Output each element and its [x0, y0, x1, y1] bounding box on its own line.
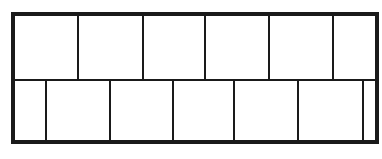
lower-cell-5 — [234, 80, 298, 142]
lower-cell-1 — [13, 80, 46, 142]
upper-cell-1 — [13, 14, 78, 80]
figure-canvas — [0, 0, 382, 159]
upper-cell-5 — [269, 14, 333, 80]
lower-cell-2 — [46, 80, 110, 142]
upper-cell-3 — [143, 14, 205, 80]
brick-tiling-diagram — [0, 0, 382, 159]
lower-cell-3 — [110, 80, 173, 142]
lower-cell-4 — [173, 80, 234, 142]
upper-row — [13, 14, 377, 80]
upper-cell-4 — [205, 14, 269, 80]
upper-cell-2 — [78, 14, 143, 80]
lower-row — [13, 80, 377, 142]
lower-cell-7 — [363, 80, 377, 142]
lower-cell-6 — [298, 80, 363, 142]
upper-cell-6 — [333, 14, 377, 80]
